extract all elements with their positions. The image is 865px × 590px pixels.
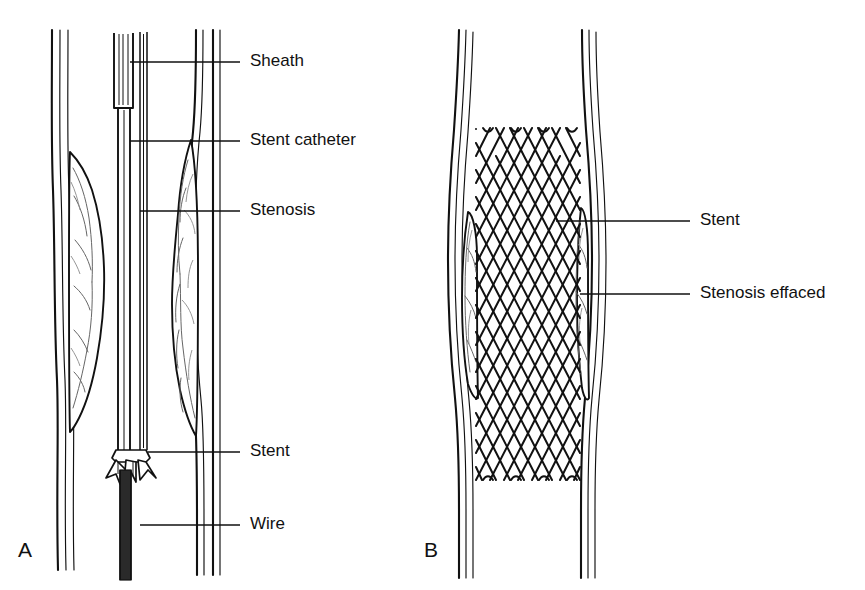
panel-label-b: B bbox=[424, 538, 438, 561]
panel-label-a: A bbox=[18, 538, 32, 561]
stent-placement-figure: Sheath Stent catheter Stenosis Stent Wir… bbox=[0, 0, 865, 590]
label-sheath: Sheath bbox=[250, 51, 304, 70]
label-stent-catheter: Stent catheter bbox=[250, 130, 356, 149]
label-stenosis: Stenosis bbox=[250, 200, 315, 219]
label-stent-panel-b: Stent bbox=[700, 210, 740, 229]
label-stent-panel-a: Stent bbox=[250, 441, 290, 460]
panel-a-wire bbox=[120, 470, 131, 580]
label-wire: Wire bbox=[250, 514, 285, 533]
label-stenosis-effaced: Stenosis effaced bbox=[700, 283, 825, 302]
